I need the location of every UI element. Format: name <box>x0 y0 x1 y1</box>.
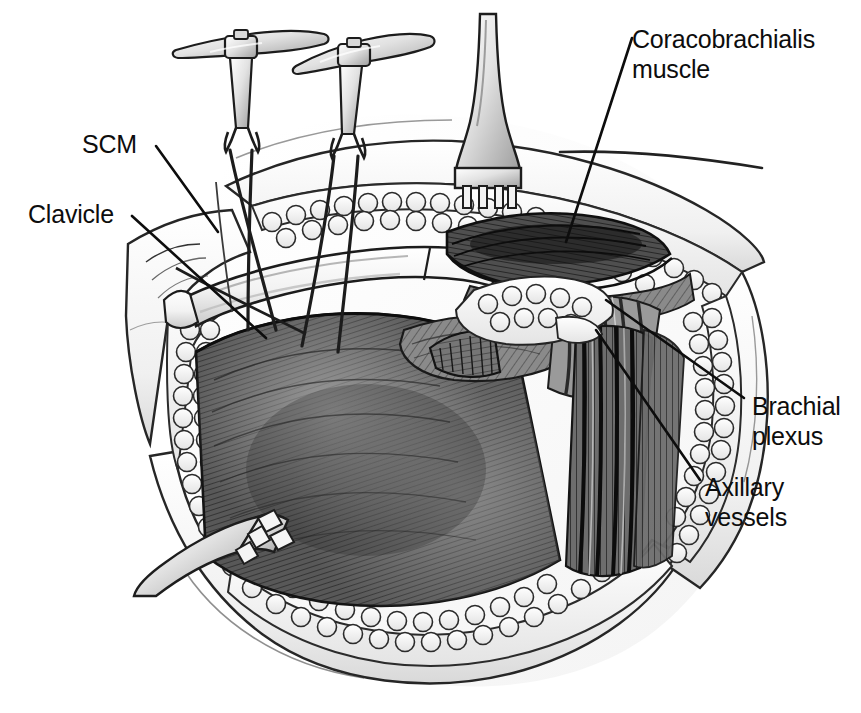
label-clavicle: Clavicle <box>28 199 114 229</box>
surgical-exposure-drawing <box>0 0 861 713</box>
label-axillary-vessels: Axillary vessels <box>705 472 787 532</box>
medical-illustration-figure: SCM Clavicle Coracobrachialis muscle Bra… <box>0 0 861 713</box>
label-scm: SCM <box>82 129 137 159</box>
label-coracobrachialis-muscle: Coracobrachialis muscle <box>632 24 815 84</box>
label-brachial-plexus: Brachial plexus <box>752 391 841 451</box>
